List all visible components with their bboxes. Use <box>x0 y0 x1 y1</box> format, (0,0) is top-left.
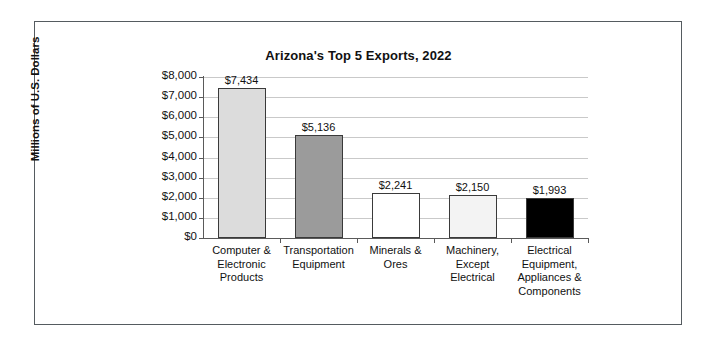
bar-value-label: $2,241 <box>356 179 436 191</box>
bar-value-label: $7,434 <box>202 74 282 86</box>
x-axis-separator-tick <box>588 238 589 243</box>
x-axis-separator-tick <box>511 238 512 243</box>
y-axis-tick-label: $4,000 <box>137 150 197 162</box>
y-axis-tick-label: $7,000 <box>137 89 197 101</box>
bar[interactable] <box>295 135 343 238</box>
y-axis-tick-label: $0 <box>137 230 197 242</box>
category-label-line: Except <box>430 258 515 272</box>
bar-value-label: $5,136 <box>279 121 359 133</box>
bar[interactable] <box>218 88 266 238</box>
y-axis-line <box>203 76 204 239</box>
bar-value-label: $1,993 <box>510 184 590 196</box>
x-axis-category-label: Machinery,ExceptElectrical <box>430 244 515 285</box>
y-axis-tick-mark <box>199 97 203 98</box>
y-axis-tick-mark <box>199 117 203 118</box>
y-axis-tick-mark <box>199 218 203 219</box>
x-axis-separator-tick <box>357 238 358 243</box>
category-label-line: Computer & <box>199 244 284 258</box>
plot-area <box>203 77 588 238</box>
y-axis-tick-label: $2,000 <box>137 190 197 202</box>
category-label-line: Transportation <box>276 244 361 258</box>
x-axis-category-label: ElectricalEquipment,Appliances &Componen… <box>507 244 592 298</box>
category-label-line: Electrical <box>430 271 515 285</box>
x-axis-separator-tick <box>434 238 435 243</box>
y-axis-tick-mark <box>199 198 203 199</box>
category-label-line: Appliances & <box>507 271 592 285</box>
category-label-line: Equipment <box>276 258 361 272</box>
category-label-line: Electronic <box>199 258 284 272</box>
category-label-line: Minerals & <box>353 244 438 258</box>
y-axis-tick-mark <box>199 137 203 138</box>
category-label-line: Ores <box>353 258 438 272</box>
y-axis-title: Millions of U.S. Dollars <box>29 9 41 189</box>
x-axis-category-label: Minerals &Ores <box>353 244 438 271</box>
category-label-line: Electrical <box>507 244 592 258</box>
x-axis-separator-tick <box>280 238 281 243</box>
chart-title: Arizona's Top 5 Exports, 2022 <box>0 48 717 63</box>
y-axis-tick-label: $1,000 <box>137 210 197 222</box>
y-axis-tick-label: $8,000 <box>137 69 197 81</box>
bar[interactable] <box>449 195 497 238</box>
category-label-line: Components <box>507 285 592 299</box>
y-axis-tick-mark <box>199 158 203 159</box>
bar[interactable] <box>372 193 420 238</box>
bar-value-label: $2,150 <box>433 181 513 193</box>
y-axis-tick-mark <box>199 178 203 179</box>
bar[interactable] <box>526 198 574 238</box>
y-axis-tick-label: $3,000 <box>137 170 197 182</box>
x-axis-line <box>203 238 589 239</box>
y-axis-tick-label: $5,000 <box>137 129 197 141</box>
category-label-line: Equipment, <box>507 258 592 272</box>
y-axis-tick-labels: $8,000$7,000$6,000$5,000$4,000$3,000$2,0… <box>135 0 197 351</box>
category-label-line: Machinery, <box>430 244 515 258</box>
x-axis-category-label: TransportationEquipment <box>276 244 361 271</box>
y-axis-tick-mark <box>199 238 203 239</box>
category-label-line: Products <box>199 271 284 285</box>
chart-page: Arizona's Top 5 Exports, 2022 Millions o… <box>0 0 717 351</box>
y-axis-tick-label: $6,000 <box>137 109 197 121</box>
x-axis-category-label: Computer &ElectronicProducts <box>199 244 284 285</box>
